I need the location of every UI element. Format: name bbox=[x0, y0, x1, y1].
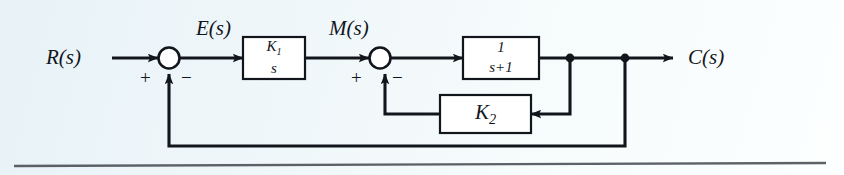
feedback-gain-block-label: K2 bbox=[440, 95, 531, 133]
input-signal-label: R(s) bbox=[46, 47, 81, 68]
feedback-gain-text: K2 bbox=[475, 100, 496, 128]
first-summing-junction-circle bbox=[159, 48, 180, 69]
diagram-canvas bbox=[0, 0, 844, 175]
block-diagram-figure: R(s) E(s) M(s) C(s) + − + − K1 s 1 s+1 K… bbox=[0, 0, 844, 175]
scan-edge-artifact bbox=[14, 163, 826, 166]
second-summing-junction-plus-sign: + bbox=[351, 68, 362, 87]
outer-loop-takeoff-dot bbox=[621, 54, 630, 63]
first-order-lag-denominator: s+1 bbox=[489, 60, 512, 76]
output-signal-label: C(s) bbox=[688, 47, 724, 68]
second-summing-junction-circle bbox=[370, 48, 391, 69]
first-summing-junction-plus-sign: + bbox=[140, 68, 151, 87]
first-order-lag-block-label: 1 s+1 bbox=[477, 41, 525, 75]
first-order-lag-numerator: 1 bbox=[497, 40, 505, 56]
inner-loop-takeoff-dot bbox=[566, 54, 575, 63]
gain-integrator-numerator: K1 bbox=[266, 39, 281, 58]
error-signal-label: E(s) bbox=[196, 18, 231, 39]
gain-integrator-denominator: s bbox=[271, 61, 277, 77]
gain-integrator-block-label: K1 s bbox=[255, 41, 293, 75]
first-summing-junction-minus-sign: − bbox=[181, 68, 192, 87]
manipulated-signal-label: M(s) bbox=[329, 18, 369, 39]
second-summing-junction-minus-sign: − bbox=[392, 68, 403, 87]
